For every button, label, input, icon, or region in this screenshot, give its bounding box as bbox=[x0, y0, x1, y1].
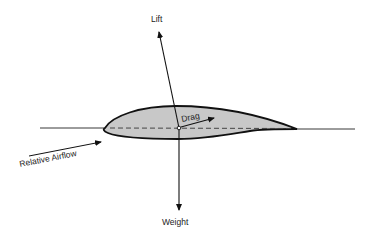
weight-label: Weight bbox=[162, 217, 189, 227]
center-of-pressure-point bbox=[177, 126, 181, 130]
lift-label: Lift bbox=[151, 14, 163, 24]
airfoil-shape bbox=[104, 106, 297, 139]
relative-airflow-label: Relative Airflow bbox=[18, 148, 78, 169]
airfoil-diagram: Lift Weight Drag Relative Airflow bbox=[0, 0, 372, 236]
chord-line bbox=[110, 128, 293, 129]
